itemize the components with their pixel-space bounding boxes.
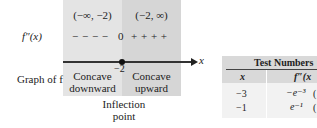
concave-left-line2: downward bbox=[63, 82, 122, 94]
table-cell-x: −1 bbox=[236, 102, 247, 113]
interval-label-left: (−∞, −2) bbox=[63, 9, 122, 21]
column-divider bbox=[266, 70, 267, 118]
annotation-line1: Inflection bbox=[94, 98, 154, 110]
sign-zero: 0 bbox=[118, 30, 124, 42]
column-header-fpp: f″(x bbox=[294, 71, 311, 82]
table-cell-fpp: e⁻¹ bbox=[290, 101, 303, 112]
table-cell-trail: ( bbox=[313, 102, 316, 113]
sign-positive: + + + + bbox=[131, 30, 168, 42]
inflection-point-annotation: Inflection point bbox=[94, 98, 154, 122]
concave-right-line2: upward bbox=[122, 82, 181, 94]
second-derivative-label: f″(x) bbox=[22, 30, 42, 42]
arrow-right-icon bbox=[191, 58, 198, 66]
annotation-line2: point bbox=[94, 110, 154, 122]
interval-label-right: (−2, ∞) bbox=[122, 9, 181, 21]
x-axis-line bbox=[63, 61, 192, 63]
x-axis-label: x bbox=[199, 54, 204, 66]
table-title: Test Numbers bbox=[254, 57, 313, 68]
concave-upward-text: Concave upward bbox=[122, 70, 181, 94]
concave-downward-text: Concave downward bbox=[63, 70, 122, 94]
table-cell-trail: ( bbox=[313, 88, 316, 99]
graph-of-f-label: Graph of f bbox=[17, 73, 63, 85]
concave-right-line1: Concave bbox=[122, 70, 181, 82]
sign-negative: − − − − bbox=[72, 30, 109, 42]
table-cell-x: −3 bbox=[236, 88, 247, 99]
table-cell-fpp: −e⁻³ bbox=[286, 87, 305, 98]
column-header-x: x bbox=[240, 71, 245, 82]
concave-left-line1: Concave bbox=[63, 70, 122, 82]
test-numbers-table: Test Numbers x f″(x −3 −e⁻³ ( −1 e⁻¹ ( bbox=[222, 56, 317, 118]
header-rule bbox=[226, 69, 317, 70]
